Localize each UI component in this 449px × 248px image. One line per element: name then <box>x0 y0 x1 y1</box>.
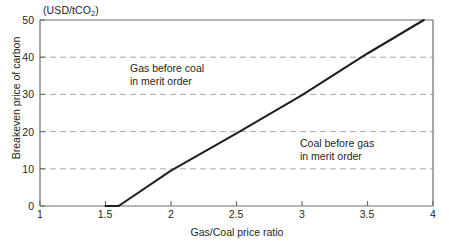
annotation-gas-before-coal: Gas before coal in merit order <box>130 62 204 88</box>
annotation-line-1: Gas before coal <box>130 62 204 75</box>
y-tick-label: 20 <box>4 127 34 138</box>
x-tick-label: 3 <box>282 209 322 220</box>
annotation-line-2: in merit order <box>300 150 374 163</box>
annotation-coal-before-gas: Coal before gas in merit order <box>300 137 374 163</box>
y-tick-label: 10 <box>4 164 34 175</box>
y-tick-label: 40 <box>4 52 34 63</box>
x-axis-title: Gas/Coal price ratio <box>40 226 434 238</box>
annotation-line-1: Coal before gas <box>300 137 374 150</box>
axis-frame <box>40 20 433 206</box>
x-tick-label: 1 <box>20 209 60 220</box>
y-tick-marks <box>40 20 45 206</box>
chart-figure: (USD/tCO2) Breakeven price of carbon 50 … <box>0 0 449 248</box>
x-tick-marks <box>40 201 433 206</box>
annotation-line-2: in merit order <box>130 75 204 88</box>
y-tick-label: 50 <box>4 15 34 26</box>
x-tick-label: 1.5 <box>85 209 125 220</box>
x-tick-label: 2.5 <box>216 209 256 220</box>
x-tick-label: 3.5 <box>347 209 387 220</box>
x-tick-label: 4 <box>413 209 449 220</box>
x-tick-label: 2 <box>151 209 191 220</box>
y-tick-label: 30 <box>4 89 34 100</box>
data-series-line <box>106 20 424 206</box>
y-axis-unit-label: (USD/tCO2) <box>43 4 99 16</box>
